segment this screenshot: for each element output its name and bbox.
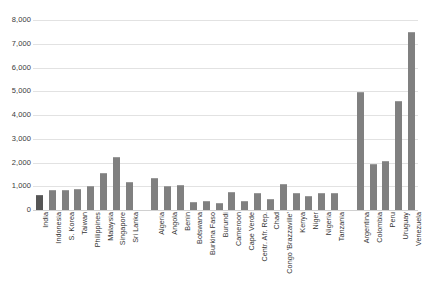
x-tick-label: Cameroon	[235, 212, 243, 246]
x-tick-label: Taiwan	[81, 212, 89, 235]
bar[interactable]	[36, 195, 43, 210]
bar[interactable]	[382, 161, 389, 210]
x-axis-category-labels: IndiaIndonesiaS. KoreaTaiwanPhilippinesM…	[33, 212, 418, 292]
bar[interactable]	[126, 182, 133, 210]
x-tick-label: Niger	[312, 212, 320, 229]
y-tick-label-0: 0	[1, 206, 31, 214]
bar[interactable]	[100, 173, 107, 210]
y-axis-tick-labels: 01,0002,0003,0004,0005,0006,0007,0008,00…	[0, 20, 31, 210]
x-tick-label: S. Korea	[68, 212, 76, 240]
x-tick-label: Philippines	[94, 212, 102, 247]
bar[interactable]	[113, 157, 120, 210]
y-tick-label-7000: 7,000	[1, 40, 31, 48]
x-tick-label: Peru	[389, 212, 397, 227]
x-tick-label: Sri Lanka	[132, 212, 140, 243]
bar[interactable]	[370, 164, 377, 210]
bar[interactable]	[395, 101, 402, 210]
x-tick-label: India	[42, 212, 50, 228]
x-tick-label: Cape Verde	[248, 212, 256, 250]
x-tick-label: Venezuela	[415, 212, 423, 246]
bar[interactable]	[280, 184, 287, 210]
x-tick-label: Tanzania	[338, 212, 346, 241]
x-tick-label: Centr. Afr. Rep.	[261, 212, 269, 262]
y-tick-label-4000: 4,000	[1, 111, 31, 119]
bar[interactable]	[177, 185, 184, 210]
bar[interactable]	[254, 193, 261, 210]
x-tick-label: Angola	[171, 212, 179, 235]
y-tick-label-1000: 1,000	[1, 182, 31, 190]
bars-container	[33, 20, 418, 210]
x-tick-label: Benin	[184, 212, 192, 231]
y-tick-label-6000: 6,000	[1, 64, 31, 72]
x-tick-label: Singapore	[119, 212, 127, 245]
y-tick-label-5000: 5,000	[1, 87, 31, 95]
bar[interactable]	[408, 32, 415, 210]
bar[interactable]	[267, 199, 274, 210]
x-tick-label: Algeria	[158, 212, 166, 235]
bar[interactable]	[216, 203, 223, 210]
x-tick-label: Colombia	[376, 212, 384, 243]
y-tick-label-2000: 2,000	[1, 159, 31, 167]
x-tick-label: Congo 'Brazzaville'	[286, 212, 294, 274]
bar[interactable]	[203, 201, 210, 211]
x-tick-label: Burkina Faso	[209, 212, 217, 255]
bar[interactable]	[151, 178, 158, 210]
bar[interactable]	[331, 193, 338, 210]
bar[interactable]	[318, 193, 325, 210]
bar[interactable]	[357, 92, 364, 210]
bar[interactable]	[164, 186, 171, 210]
x-tick-label: Argentina	[363, 212, 371, 243]
x-tick-label: Malaysia	[107, 212, 115, 241]
bar[interactable]	[241, 201, 248, 210]
bar[interactable]	[228, 192, 235, 210]
bar[interactable]	[87, 186, 94, 210]
x-tick-label: Chad	[273, 212, 281, 229]
bar[interactable]	[190, 202, 197, 210]
y-tick-label-8000: 8,000	[1, 16, 31, 24]
bar[interactable]	[305, 196, 312, 210]
gridline-0	[33, 210, 418, 211]
x-tick-label: Uruguay	[402, 212, 410, 240]
bar-chart: 01,0002,0003,0004,0005,0006,0007,0008,00…	[0, 0, 424, 308]
x-tick-label: Indonesia	[55, 212, 63, 244]
x-tick-label: Nigeria	[325, 212, 333, 235]
x-tick-label: Kenya	[299, 212, 307, 233]
bar[interactable]	[74, 189, 81, 210]
bar[interactable]	[293, 193, 300, 210]
x-tick-label: Burundi	[222, 212, 230, 237]
bar[interactable]	[49, 190, 56, 210]
x-tick-label: Botswana	[196, 212, 204, 244]
bar[interactable]	[62, 190, 69, 210]
y-tick-label-3000: 3,000	[1, 135, 31, 143]
